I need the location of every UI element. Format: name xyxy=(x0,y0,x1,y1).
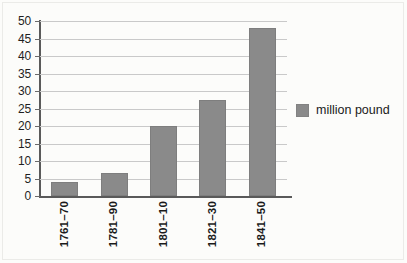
gridline xyxy=(40,196,287,197)
y-axis-label: 35 xyxy=(18,67,31,81)
y-axis-label: 50 xyxy=(18,14,31,28)
y-tick-mark xyxy=(35,21,40,22)
y-tick-mark xyxy=(35,91,40,92)
bar xyxy=(51,182,78,196)
x-axis-label: 1781–90 xyxy=(107,201,121,247)
y-tick-mark xyxy=(35,126,40,127)
y-tick-mark xyxy=(35,56,40,57)
y-tick-mark xyxy=(35,196,40,197)
legend-label: million pound xyxy=(316,103,390,117)
plot-area: 05101520253035404550 xyxy=(40,21,287,196)
x-axis-label: 1801–10 xyxy=(157,201,171,247)
y-axis-label: 45 xyxy=(18,32,31,46)
bar xyxy=(150,126,177,196)
y-axis-label: 0 xyxy=(25,189,31,203)
y-axis-label: 30 xyxy=(18,84,31,98)
y-axis-label: 5 xyxy=(25,172,31,186)
bar xyxy=(101,173,128,196)
x-axis-label: 1821–30 xyxy=(206,201,220,247)
legend-swatch-icon xyxy=(296,104,309,117)
bar-chart-figure: 05101520253035404550 1761–701781–901801–… xyxy=(0,0,407,263)
x-axis-label: 1761–70 xyxy=(58,201,72,247)
y-tick-mark xyxy=(35,161,40,162)
y-tick-mark xyxy=(35,144,40,145)
y-axis-label: 40 xyxy=(18,49,31,63)
legend: million pound xyxy=(296,103,390,117)
bar xyxy=(199,100,226,196)
y-axis-label: 20 xyxy=(18,119,31,133)
gridline xyxy=(40,21,287,22)
y-tick-mark xyxy=(35,74,40,75)
y-tick-mark xyxy=(35,39,40,40)
y-axis-label: 10 xyxy=(18,154,31,168)
bar xyxy=(249,28,276,196)
y-axis-label: 25 xyxy=(18,102,31,116)
y-tick-mark xyxy=(35,109,40,110)
y-tick-mark xyxy=(35,179,40,180)
x-axis-label: 1841–50 xyxy=(255,201,269,247)
y-axis-label: 15 xyxy=(18,137,31,151)
